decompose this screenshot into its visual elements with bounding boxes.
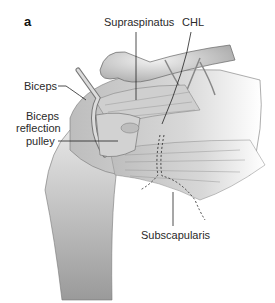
label-chl: CHL — [182, 16, 204, 28]
label-biceps: Biceps — [24, 80, 57, 92]
label-pulley-line1: Biceps — [26, 110, 54, 122]
label-supraspinatus: Supraspinatus — [104, 16, 174, 28]
panel-label: a — [24, 14, 31, 29]
shoulder-illustration — [0, 0, 275, 303]
biceps-reflection-pulley — [96, 113, 140, 157]
label-pulley-line2: reflection — [16, 122, 61, 134]
biceps-leader — [58, 86, 86, 100]
label-subscapularis: Subscapularis — [141, 229, 210, 241]
label-pulley-line3: pulley — [26, 135, 55, 147]
